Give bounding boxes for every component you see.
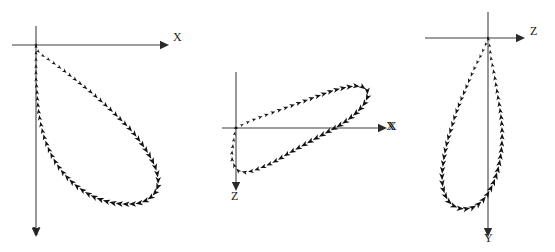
projection-xy-marker	[62, 69, 68, 75]
projection-xz-marker	[258, 115, 263, 120]
projection-xy-marker	[43, 140, 49, 147]
projection-xz-marker	[240, 123, 245, 127]
projection-xz-marker	[333, 86, 341, 93]
projection-zy-marker	[499, 140, 504, 147]
projection-zy-marker	[449, 121, 455, 128]
projection-xz-marker	[318, 131, 327, 139]
projection-xy-marker	[37, 115, 42, 121]
projection-zy-marker	[478, 54, 483, 59]
projection-zy-marker	[475, 60, 480, 65]
projection-xz-marker	[283, 105, 289, 111]
projection-zy-marker	[489, 56, 493, 61]
projection-zy-curve	[439, 36, 504, 212]
projection-xz-marker	[241, 170, 247, 175]
projection-xy-marker	[112, 111, 120, 119]
projection-xz-marker	[339, 85, 347, 91]
projection-xy-curve	[34, 43, 161, 207]
projection-xy-marker	[129, 201, 136, 207]
projection-zy-marker	[451, 114, 457, 121]
projection-zy-marker	[498, 114, 503, 121]
projection-xy-marker	[152, 163, 159, 171]
projection-xy-marker	[109, 199, 117, 206]
projection-xy-marker	[107, 106, 114, 113]
projection-xz-marker	[277, 154, 285, 161]
projection-xz-vertical-axis-label: Z	[231, 190, 238, 202]
projection-xy-marker	[87, 89, 94, 96]
projection-xz-marker	[288, 147, 296, 155]
projection-xz-marker	[230, 150, 234, 155]
trajectory-figure: XYXZZYX	[0, 0, 555, 252]
projection-xy-horizontal-arrowhead-icon	[160, 41, 169, 49]
projection-zy-marker	[444, 140, 450, 147]
projection-zy-marker	[499, 120, 504, 127]
projection-xz-marker	[312, 134, 321, 142]
projection-xy-marker	[84, 190, 93, 198]
projection-xy-marker	[97, 97, 104, 104]
projection-zy-marker	[454, 108, 460, 115]
projection-xy-marker	[149, 157, 157, 166]
projection-xy-marker	[155, 177, 161, 184]
projection-zy-marker	[439, 173, 445, 180]
projection-zy-marker	[500, 133, 505, 139]
projection-zy-marker	[498, 107, 503, 113]
projection-zy-marker	[495, 88, 500, 94]
projection-xz-marker	[246, 120, 251, 124]
projection-zy-marker	[472, 66, 477, 72]
projection-zy-marker	[496, 94, 501, 100]
projection-zy-marker	[494, 82, 499, 88]
projection-xz-marker	[252, 117, 257, 122]
projection-zy-marker	[491, 69, 495, 74]
projection-xz-marker	[295, 100, 302, 106]
projection-xy-marker	[72, 77, 78, 83]
projection-xy-marker	[142, 146, 150, 155]
projection-xz-marker	[300, 141, 309, 149]
projection-xz-marker	[341, 118, 350, 127]
projection-xz-marker	[270, 110, 276, 115]
projection-zy-marker	[500, 127, 505, 133]
projection-xy-vertical-axis-label: Y	[32, 225, 41, 237]
projection-xy-horizontal-axis-label: X	[173, 31, 182, 43]
projection-zy-marker	[458, 96, 464, 103]
projection-xy-marker	[134, 135, 142, 143]
projection-xz-marker	[323, 128, 332, 136]
projection-zy-marker	[495, 165, 502, 173]
projection-xz-horizontal-axis	[222, 124, 387, 132]
projection-zy-extra-axis-label: X	[386, 120, 395, 132]
projection-xy-marker	[40, 127, 46, 134]
projection-xz-marker	[230, 157, 234, 162]
projection-xz-marker	[277, 107, 283, 112]
projection-zy-marker	[440, 160, 446, 167]
projection-xz-marker	[232, 137, 236, 142]
projection-zy-marker	[466, 78, 471, 84]
projection-xz-marker	[264, 112, 270, 117]
axes-layer	[12, 12, 525, 237]
projection-xy-marker	[67, 73, 73, 79]
projection-xz-marker	[320, 90, 328, 97]
projection-xy-marker	[138, 140, 146, 149]
projection-zy-marker	[483, 42, 487, 47]
projection-xy-marker	[46, 146, 53, 154]
projection-zy-marker	[481, 48, 486, 53]
projection-xy-marker	[102, 102, 109, 109]
projection-xy-marker	[46, 57, 51, 62]
projection-zy-marker	[456, 205, 464, 211]
projection-xy-marker	[154, 170, 160, 178]
projection-zy-marker	[456, 102, 462, 109]
projection-xz-marker	[308, 95, 315, 101]
projection-xz-marker	[327, 88, 335, 95]
projection-xz-curve	[230, 83, 371, 175]
projection-xy-marker	[115, 201, 123, 207]
projection-zy-marker	[447, 127, 453, 134]
projection-zy-marker	[461, 90, 467, 96]
projection-zy-marker	[474, 199, 483, 208]
projection-xy-marker	[41, 54, 46, 59]
projection-zy-marker	[488, 49, 492, 54]
projection-zy-marker	[493, 75, 498, 81]
projection-xy-marker	[38, 121, 43, 127]
projection-xz-marker	[260, 164, 267, 170]
projection-zy-marker	[469, 72, 474, 78]
projection-xy-marker	[92, 93, 99, 100]
projection-zy-marker	[490, 178, 498, 187]
projection-zy-horizontal-axis	[425, 34, 525, 42]
plot-canvas	[0, 0, 555, 252]
